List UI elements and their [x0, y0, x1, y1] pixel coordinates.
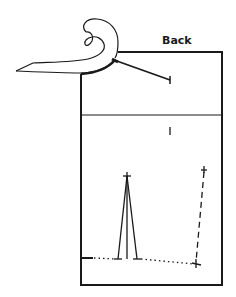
baseline-dotted-right: [141, 259, 194, 264]
hook-base-thick: [81, 60, 115, 74]
baseline-dotted-left: [94, 258, 116, 259]
angled-arm-line: [114, 60, 170, 80]
dashed-vertical: [196, 172, 204, 262]
diagram-canvas: [0, 0, 236, 297]
box-frame: [81, 52, 222, 285]
peak-lines: [114, 172, 141, 259]
back-label: Back: [162, 34, 192, 47]
hook-curl-shape: [16, 19, 118, 73]
